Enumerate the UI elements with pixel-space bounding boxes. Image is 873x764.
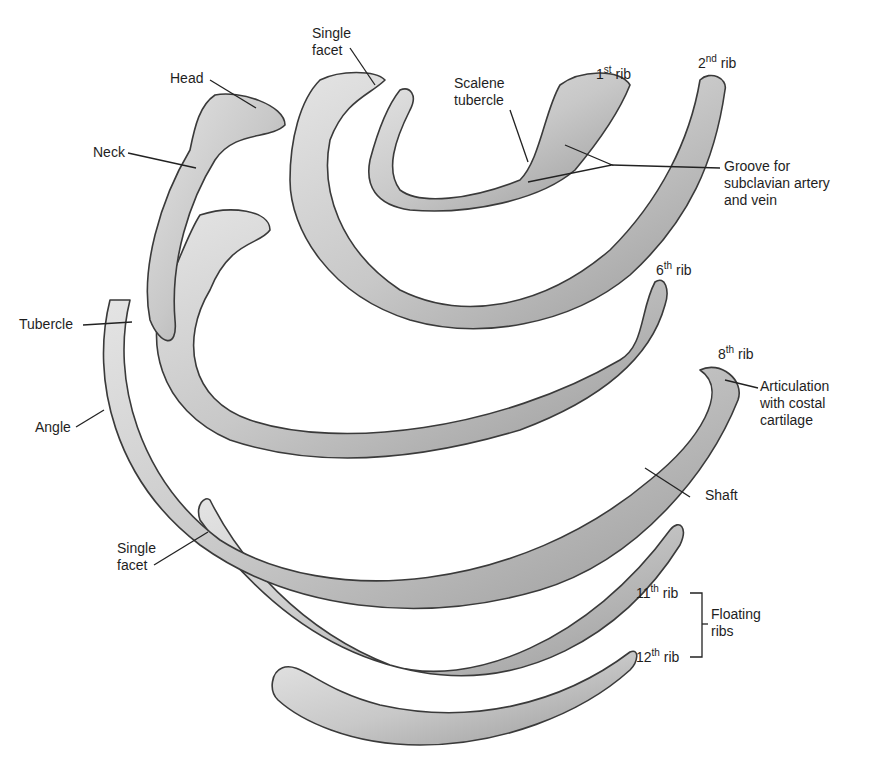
label-articulation: Articulation with costal cartilage xyxy=(760,378,829,429)
label-tubercle: Tubercle xyxy=(19,316,73,333)
label-groove: Groove for subclavian artery and vein xyxy=(724,158,830,209)
rib-illustration xyxy=(0,0,873,764)
label-rib-12: 12th rib xyxy=(636,649,679,666)
label-shaft: Shaft xyxy=(705,487,738,504)
label-head: Head xyxy=(170,70,203,87)
rib-6 xyxy=(157,210,667,458)
label-rib-2: 2nd rib xyxy=(698,55,736,72)
label-neck: Neck xyxy=(93,144,125,161)
rib-12 xyxy=(272,651,637,745)
label-rib-11: 11th rib xyxy=(636,585,678,602)
label-angle: Angle xyxy=(35,419,71,436)
label-single-facet-bottom: Single facet xyxy=(117,540,156,574)
label-single-facet-top: Single facet xyxy=(312,25,351,59)
label-rib-6: 6th rib xyxy=(656,262,692,279)
label-rib-8: 8th rib xyxy=(718,346,754,363)
label-rib-1: 1st rib xyxy=(596,66,631,83)
label-floating-ribs: Floating ribs xyxy=(711,606,761,640)
label-scalene-tubercle: Scalene tubercle xyxy=(454,75,505,109)
